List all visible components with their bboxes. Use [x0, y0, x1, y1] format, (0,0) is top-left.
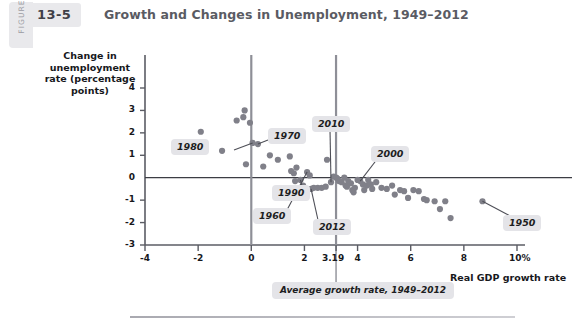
- data-point: [234, 117, 240, 123]
- data-point: [410, 187, 416, 193]
- data-point: [324, 157, 330, 163]
- data-point: [373, 179, 379, 185]
- annotation-leader-line: [330, 130, 331, 182]
- x-tick-label: 4: [343, 253, 373, 263]
- data-point: [267, 152, 273, 158]
- data-point: [275, 157, 281, 163]
- x-tick-label: 6: [396, 253, 426, 263]
- data-point: [432, 198, 438, 204]
- data-point: [401, 188, 407, 194]
- data-point: [447, 215, 453, 221]
- data-point: [198, 129, 204, 135]
- scatter-plot: Change in unemployment rate (percentage …: [0, 0, 584, 333]
- data-point: [307, 172, 313, 178]
- data-point: [291, 170, 297, 176]
- x-tick-label: 10%: [509, 253, 539, 263]
- y-tick-label: 3: [113, 104, 135, 114]
- y-tick-label: -2: [113, 217, 135, 227]
- y-tick-label: -1: [113, 194, 135, 204]
- data-point: [437, 206, 443, 212]
- annotation-2010: 2010: [312, 116, 350, 132]
- annotation-1980: 1980: [171, 139, 209, 155]
- data-point: [416, 188, 422, 194]
- annotation-1970: 1970: [268, 128, 306, 144]
- data-point: [243, 161, 249, 167]
- data-point: [352, 185, 358, 191]
- data-point: [442, 198, 448, 204]
- x-tick-label: -2: [183, 253, 213, 263]
- y-tick-label: 4: [113, 82, 135, 92]
- y-tick-label: -3: [113, 239, 135, 249]
- annotation-1950: 1950: [503, 215, 541, 231]
- data-point: [323, 184, 329, 190]
- data-point: [389, 182, 395, 188]
- y-tick-label: 0: [113, 172, 135, 182]
- average-growth-callout: Average growth rate, 1949–2012: [272, 282, 454, 299]
- annotation-2000: 2000: [371, 146, 409, 162]
- data-point: [292, 178, 298, 184]
- x-tick-label: 8: [449, 253, 479, 263]
- data-point: [369, 186, 375, 192]
- bottom-divider: [130, 316, 515, 318]
- annotation-leader-line: [234, 143, 253, 150]
- annotation-1990: 1990: [272, 185, 310, 201]
- x-tick-label: 0: [236, 253, 266, 263]
- data-point: [287, 153, 293, 159]
- data-point: [392, 191, 398, 197]
- data-point: [240, 114, 246, 120]
- data-point: [384, 186, 390, 192]
- x-tick-label: 2: [289, 253, 319, 263]
- y-tick-label: 1: [113, 149, 135, 159]
- data-point: [242, 107, 248, 113]
- x-tick-label: -4: [130, 253, 160, 263]
- data-point: [293, 165, 299, 171]
- data-point: [260, 163, 266, 169]
- data-point: [424, 197, 430, 203]
- data-point: [247, 120, 253, 126]
- data-point: [378, 185, 384, 191]
- annotation-leader-line: [311, 189, 318, 220]
- data-point: [219, 148, 225, 154]
- annotation-2012: 2012: [313, 219, 351, 235]
- y-tick-label: 2: [113, 127, 135, 137]
- data-point: [405, 195, 411, 201]
- annotation-1960: 1960: [253, 208, 291, 224]
